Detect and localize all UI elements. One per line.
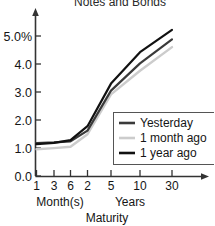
- x-axis-tick-labels: 1 3 6 2 5 10 30: [33, 179, 179, 193]
- ytick-label-1: 1.0: [15, 142, 32, 156]
- xtick-label-30year: 30: [165, 179, 179, 193]
- xtick-label-2year: 2: [84, 179, 91, 193]
- x-axis-group-labels: Month(s) Years: [36, 195, 145, 209]
- legend-label-yesterday: Yesterday: [140, 116, 193, 130]
- ytick-label-2: 2.0: [15, 114, 32, 128]
- ytick-label-3: 3.0: [15, 86, 32, 100]
- xtick-label-5year: 5: [108, 179, 115, 193]
- y-axis-ticks: [36, 36, 42, 176]
- ytick-label-0: 0.0: [15, 170, 32, 184]
- ytick-label-5: 5.0%: [4, 30, 33, 44]
- chart-title: Notes and Bonds: [74, 0, 166, 9]
- xtick-label-1month: 1: [33, 179, 40, 193]
- xtick-label-3month: 3: [51, 179, 58, 193]
- x-axis-ticks: [37, 170, 173, 177]
- yield-curve-chart: Notes and Bonds 0.0 1.0 2.0 3.0 4.0 5.0%: [0, 0, 214, 226]
- group-label-years: Years: [115, 195, 145, 209]
- legend-label-1-year-ago: 1 year ago: [140, 146, 197, 160]
- chart-screenshot: Notes and Bonds 0.0 1.0 2.0 3.0 4.0 5.0%: [0, 0, 214, 226]
- x-axis-title: Maturity: [86, 211, 129, 225]
- y-axis-tick-labels: 0.0 1.0 2.0 3.0 4.0 5.0%: [4, 30, 33, 184]
- xtick-label-6month: 6: [67, 179, 74, 193]
- legend-label-1-month-ago: 1 month ago: [140, 131, 207, 145]
- ytick-label-4: 4.0: [15, 58, 32, 72]
- xtick-label-10year: 10: [133, 179, 147, 193]
- x-axis: [36, 173, 210, 180]
- chart-legend: Yesterday 1 month ago 1 year ago: [114, 113, 215, 165]
- group-label-months: Month(s): [36, 195, 83, 209]
